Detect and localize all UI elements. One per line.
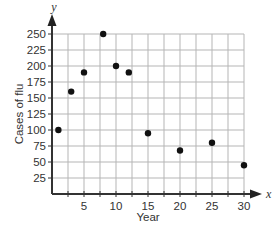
y-tick-label: 200 [27,60,46,72]
y-axis-variable: y [50,0,57,14]
y-tick-label: 150 [27,92,46,104]
y-axis-arrow-icon [48,14,57,26]
x-tick-label: 20 [174,200,187,212]
data-point [177,147,183,153]
scatter-chart: 255075100125150175200225250 51015202530 … [0,0,274,230]
data-point [55,127,61,133]
y-tick-label: 100 [27,124,46,136]
y-tick-label: 250 [27,28,46,40]
data-point [100,31,106,37]
axes [48,14,263,199]
data-point [145,130,151,136]
y-tick-label: 75 [33,140,46,152]
data-point [113,63,119,69]
x-tick-label: 5 [81,200,87,212]
data-point [81,69,87,75]
x-tick-label: 30 [238,200,251,212]
data-point [68,88,74,94]
data-point [209,140,215,146]
y-tick-label: 175 [27,76,46,88]
x-axis-variable: x [265,187,272,201]
x-tick-label: 25 [206,200,219,212]
x-axis-title: Year [136,211,159,223]
y-tick-label: 25 [33,172,46,184]
x-axis-arrow-icon [250,190,262,199]
y-axis-title: Cases of flu [13,84,25,145]
y-tick-labels: 255075100125150175200225250 [27,28,52,184]
grid-lines [52,34,244,194]
data-point [126,69,132,75]
data-point [241,162,247,168]
y-tick-label: 125 [27,108,46,120]
x-tick-label: 10 [110,200,123,212]
y-tick-label: 225 [27,44,46,56]
y-tick-label: 50 [33,156,46,168]
